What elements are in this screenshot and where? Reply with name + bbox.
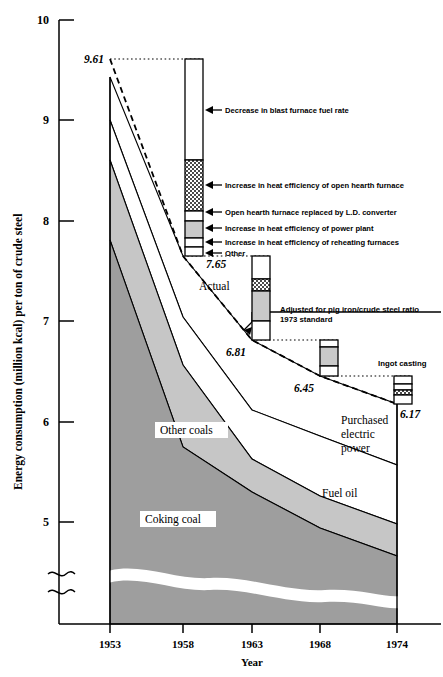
segment-reheating (185, 238, 203, 247)
bar2-seg3 (252, 291, 270, 321)
y-tick-label-5: 5 (43, 515, 49, 529)
x-tick-label-1974: 1974 (386, 638, 409, 650)
annotation-other: Other (225, 249, 245, 258)
value-label-7-65: 7.65 (206, 258, 226, 270)
y-tick-label-10: 10 (37, 13, 49, 27)
bar4-seg2 (394, 384, 412, 390)
annotation-decrease-blast-furnace: Decrease in blast furnace fuel rate (225, 106, 349, 115)
x-tick-label-1963: 1963 (241, 638, 264, 650)
bar2-seg4 (252, 321, 270, 340)
y-tick-label-6: 6 (43, 415, 49, 429)
area-label-coking-coal-text: Coking coal (145, 513, 201, 526)
label-adjusted-line1: Adjusted for pig iron/crude steel ratio (280, 305, 419, 314)
value-label-9-61: 9.61 (84, 53, 104, 65)
x-tick-label-1968: 1968 (309, 638, 332, 650)
segment-ld-converter (185, 211, 203, 221)
bar4-seg3 (394, 390, 412, 395)
label-actual: Actual (199, 280, 230, 292)
area-label-other-coals: Other coals (155, 422, 228, 438)
label-ingot-casting: Ingot casting (378, 359, 427, 368)
area-label-purchased-1: Purchased (341, 414, 389, 426)
y-tick-label-7: 7 (43, 314, 49, 328)
area-label-other-coals-text: Other coals (160, 424, 213, 436)
bar3-seg1 (320, 340, 338, 347)
bar4-seg4 (394, 395, 412, 404)
y-tick-label-9: 9 (43, 113, 49, 127)
x-tick-label-1953: 1953 (99, 638, 122, 650)
value-label-6-81: 6.81 (226, 346, 246, 358)
annotation-open-hearth-efficiency: Increase in heat efficiency of open hear… (225, 181, 404, 190)
area-label-fuel-oil: Fuel oil (322, 487, 357, 499)
bar3-seg3 (320, 366, 338, 376)
waterfall-bar-1968 (320, 340, 338, 376)
x-tick-label-1958: 1958 (172, 638, 195, 650)
x-axis-title: Year (241, 656, 263, 668)
annotation-power-plant-efficiency: Increase in heat efficiency of power pla… (225, 224, 374, 233)
bar2-seg2 (252, 279, 270, 291)
value-label-6-17: 6.17 (400, 408, 421, 420)
energy-consumption-chart: 10 9 8 7 6 5 Energy consumption (million… (0, 0, 443, 677)
waterfall-bar-1958 (185, 59, 203, 256)
annotation-ld-converter: Open hearth furnace replaced by L.D. con… (225, 208, 397, 217)
label-adjusted-line2: 1973 standard (280, 315, 333, 324)
waterfall-bar-1963 (252, 256, 270, 340)
y-tick-label-8: 8 (43, 214, 49, 228)
waterfall-bar-1974 (394, 376, 412, 404)
bar2-seg1 (252, 256, 270, 279)
area-label-purchased-3: power (341, 442, 370, 455)
segment-power-plant (185, 221, 203, 238)
area-label-coking-coal: Coking coal (140, 511, 216, 527)
annotation-reheating-furnaces: Increase in heat efficiency of reheating… (225, 238, 399, 247)
bar4-seg1 (394, 376, 412, 384)
value-label-6-45: 6.45 (294, 382, 314, 394)
segment-blast-furnace (185, 59, 203, 160)
area-label-purchased-2: electric (341, 428, 375, 440)
segment-open-hearth-efficiency (185, 160, 203, 211)
bar3-seg2 (320, 347, 338, 366)
segment-other (185, 247, 203, 256)
y-axis-title: Energy consumption (million kcal) per to… (12, 214, 25, 490)
